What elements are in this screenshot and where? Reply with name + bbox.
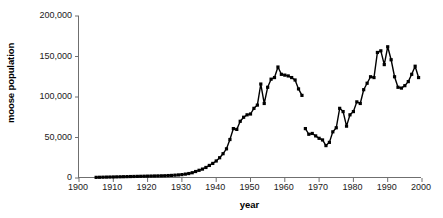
moose-population-chart: moose population 050,000100,000150,00020… bbox=[0, 0, 443, 218]
y-tick-label: 150,000 bbox=[22, 51, 72, 63]
y-axis-title: moose population bbox=[2, 0, 20, 192]
data-series-1 bbox=[304, 45, 420, 147]
x-axis-tick-labels: 1900191019201930194019501960197019801990… bbox=[78, 182, 421, 196]
y-tick-label: 100,000 bbox=[22, 91, 72, 103]
plot-svg bbox=[79, 16, 422, 178]
x-axis-title: year bbox=[78, 199, 421, 210]
x-tick-label: 2000 bbox=[401, 182, 441, 192]
data-series-0 bbox=[95, 65, 304, 179]
y-tick-label-text: 50,000 bbox=[22, 132, 72, 142]
y-tick-label: 200,000 bbox=[22, 10, 72, 22]
y-tick-label: 50,000 bbox=[22, 132, 72, 144]
y-axis-tick-labels: 050,000100,000150,000200,000 bbox=[22, 16, 72, 178]
y-tick-label-text: 200,000 bbox=[22, 10, 72, 20]
plot-area bbox=[78, 16, 421, 178]
y-tick-label-text: 150,000 bbox=[22, 51, 72, 61]
y-tick-label-text: 100,000 bbox=[22, 91, 72, 101]
y-tick-label-text: 0 bbox=[22, 172, 72, 182]
axis-ticks bbox=[75, 16, 422, 182]
